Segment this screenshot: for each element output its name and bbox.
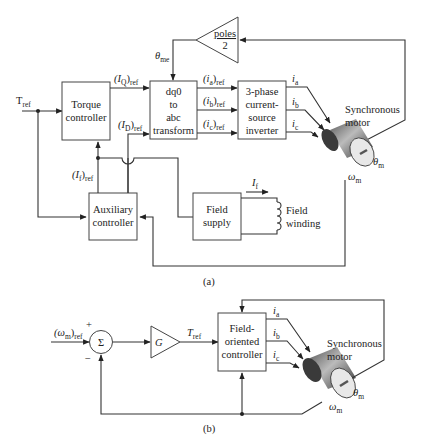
field-wire-top bbox=[241, 198, 277, 202]
plus-sign: + bbox=[86, 319, 92, 330]
dq0-label-4: transform bbox=[153, 125, 194, 136]
if-ref-label: (If)ref bbox=[72, 169, 94, 183]
poles-gain-triangle bbox=[196, 17, 238, 63]
auxiliary-label-1: Auxiliary bbox=[93, 204, 134, 215]
inverter-label-4: inverter bbox=[246, 125, 279, 136]
omega-feedback-arrow-b bbox=[101, 355, 322, 414]
torque-controller-label-2: controller bbox=[66, 112, 107, 123]
dq0-label-1: dq0 bbox=[166, 86, 182, 97]
dq0-label-3: abc bbox=[166, 112, 181, 123]
ic-ref-label: (ic)ref bbox=[203, 118, 225, 132]
poles-denominator: 2 bbox=[222, 40, 227, 51]
inverter-label-2: current- bbox=[245, 99, 279, 110]
omega-ref-input-label: (ωm)ref bbox=[54, 327, 83, 341]
field-winding-label-2: winding bbox=[286, 218, 321, 229]
id-ref-label: (ID)ref bbox=[118, 119, 143, 133]
caption-a: (a) bbox=[203, 276, 215, 288]
field-supply-label-1: Field bbox=[206, 204, 228, 215]
motor-b-label-1: Synchronous bbox=[327, 338, 382, 349]
omega-m-label-b: ωm bbox=[329, 401, 342, 415]
gain-g-label: G bbox=[155, 337, 163, 348]
inverter-label-1: 3-phase bbox=[246, 86, 279, 97]
inverter-label-3: source bbox=[248, 112, 276, 123]
theta-m-label-b: θm bbox=[353, 387, 364, 401]
diagram-b: (ωm)ref + − Σ G Tref Field- oriented con… bbox=[51, 300, 384, 435]
ic-label: ic bbox=[292, 118, 299, 132]
if-label: If bbox=[251, 177, 259, 191]
theta-me-label: θme bbox=[155, 50, 170, 64]
torque-controller-label-1: Torque bbox=[71, 99, 101, 110]
tref-input-label: Tref bbox=[16, 95, 31, 109]
foc-label-1: Field- bbox=[229, 323, 255, 334]
ia-ref-label: (ia)ref bbox=[203, 73, 225, 87]
ic-arrow-b bbox=[266, 363, 299, 368]
diagram-a: Tref Torque controller (IQ)ref (ID)ref d… bbox=[16, 17, 405, 288]
ic-label-b: ic bbox=[273, 349, 280, 363]
iq-ref-label: (IQ)ref bbox=[114, 73, 139, 87]
ic-arrow bbox=[286, 132, 318, 137]
sigma-icon: Σ bbox=[98, 337, 104, 348]
motor-a-label-2: motor bbox=[345, 117, 371, 128]
omega-m-label-a: ωm bbox=[348, 171, 361, 185]
tref-label-b: Tref bbox=[187, 327, 202, 341]
theta-me-arrow bbox=[173, 40, 196, 80]
motor-b-label-2: motor bbox=[327, 351, 353, 362]
ia-label-b: ia bbox=[273, 305, 280, 319]
diagram-canvas: Tref Torque controller (IQ)ref (ID)ref d… bbox=[0, 0, 423, 447]
ib-label: ib bbox=[292, 96, 299, 110]
foc-label-3: controller bbox=[222, 349, 263, 360]
field-winding-coil-icon bbox=[277, 202, 281, 230]
poles-numerator: poles bbox=[214, 28, 236, 39]
torque-controller-block bbox=[62, 82, 110, 140]
field-supply-label-2: supply bbox=[203, 217, 232, 228]
field-winding-label-1: Field bbox=[286, 205, 308, 216]
ib-ref-label: (ib)ref bbox=[203, 95, 225, 109]
auxiliary-label-2: controller bbox=[93, 217, 134, 228]
minus-sign: − bbox=[85, 353, 91, 364]
motor-a-label-1: Synchronous bbox=[345, 104, 400, 115]
junction-dot bbox=[240, 412, 244, 416]
dq0-label-2: to bbox=[169, 99, 177, 110]
ia-label: ia bbox=[292, 73, 299, 87]
field-wire-bottom bbox=[241, 230, 277, 234]
caption-b: (b) bbox=[203, 423, 216, 435]
theta-m-label-a: θm bbox=[373, 156, 384, 170]
ib-label-b: ib bbox=[273, 327, 280, 341]
ib-arrow-b bbox=[266, 341, 303, 359]
foc-label-2: oriented bbox=[225, 336, 260, 347]
